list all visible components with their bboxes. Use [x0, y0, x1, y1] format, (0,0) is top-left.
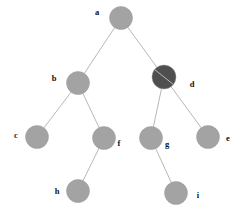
tree-node-b[interactable]	[67, 72, 90, 95]
tree-node-g[interactable]	[140, 127, 163, 150]
tree-node-label-h: h	[55, 186, 60, 196]
edge-layer	[37, 18, 208, 193]
tree-node-label-g: g	[165, 139, 170, 149]
tree-node-i[interactable]	[165, 182, 188, 205]
tree-node-a[interactable]	[110, 7, 133, 30]
tree-diagram: abdcfgehi	[0, 0, 247, 215]
tree-node-label-a: a	[95, 7, 100, 17]
tree-node-label-b: b	[52, 73, 57, 83]
tree-node-h[interactable]	[67, 180, 90, 203]
tree-node-label-c: c	[14, 130, 18, 140]
tree-node-c[interactable]	[26, 126, 49, 149]
node-layer	[26, 7, 220, 205]
tree-node-e[interactable]	[197, 126, 220, 149]
tree-diagram-canvas: abdcfgehi	[0, 0, 247, 215]
label-layer: abdcfgehi	[14, 7, 230, 200]
tree-node-label-d: d	[190, 79, 195, 89]
tree-node-f[interactable]	[93, 127, 116, 150]
tree-node-label-f: f	[118, 138, 121, 148]
tree-node-label-i: i	[197, 190, 200, 200]
tree-node-label-e: e	[226, 133, 230, 143]
